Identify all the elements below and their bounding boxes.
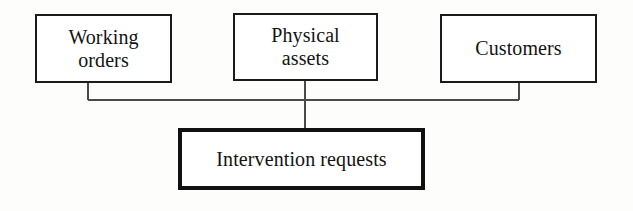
relationship-diagram: Working orders Physical assets Customers… [0,0,633,211]
node-intervention-requests-label: Intervention requests [216,148,386,171]
node-intervention-requests[interactable]: Intervention requests [178,128,425,190]
node-customers-label: Customers [475,37,561,60]
node-physical-assets-label: Physical assets [271,24,340,70]
node-working-orders-label: Working orders [68,26,138,72]
node-physical-assets[interactable]: Physical assets [233,13,378,81]
node-working-orders[interactable]: Working orders [35,14,172,83]
node-customers[interactable]: Customers [440,14,597,83]
